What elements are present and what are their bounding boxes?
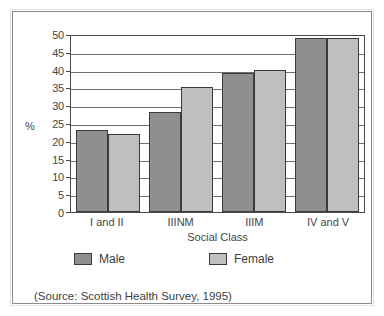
y-axis-tick-labels: 05101520253035404550 — [35, 35, 66, 213]
y-axis-tick-label: 5 — [58, 189, 64, 201]
legend-swatch-female — [209, 253, 227, 265]
y-axis-tick-label: 35 — [52, 82, 64, 94]
y-axis-tick-label: 10 — [52, 171, 64, 183]
bar-female-1 — [181, 87, 213, 212]
y-axis-tick-label: 40 — [52, 65, 64, 77]
legend-label: Male — [99, 252, 125, 266]
bar-female-3 — [327, 38, 359, 212]
y-axis-tick-label: 0 — [58, 207, 64, 219]
bar-female-0 — [108, 134, 140, 212]
bar-group — [144, 36, 217, 212]
bar-male-3 — [295, 38, 327, 212]
bar-groups — [71, 36, 364, 212]
x-axis-title: Social Class — [70, 231, 365, 243]
y-axis-tick-label: 25 — [52, 118, 64, 130]
chart-legend: MaleFemale — [70, 252, 320, 266]
y-axis-tick-label: 50 — [52, 29, 64, 41]
chart-screenshot: % 05101520253035404550 I and IIIIINMIIIM… — [0, 0, 384, 316]
x-axis-tick-label: IV and V — [291, 216, 365, 232]
figure-frame: % 05101520253035404550 I and IIIIINMIIIM… — [12, 11, 372, 304]
x-axis-tick-labels: I and IIIIINMIIIMIV and V — [70, 216, 365, 232]
bar-male-1 — [149, 112, 181, 212]
source-note: (Source: Scottish Health Survey, 1995) — [34, 290, 232, 302]
legend-label: Female — [234, 252, 274, 266]
y-axis-tick-label: 20 — [52, 136, 64, 148]
bar-group — [218, 36, 291, 212]
x-axis-tick-label: IIIM — [218, 216, 292, 232]
bar-group — [291, 36, 364, 212]
legend-swatch-male — [74, 253, 92, 265]
y-axis-tick-label: 45 — [52, 47, 64, 59]
bar-female-2 — [254, 70, 286, 212]
bar-male-2 — [222, 73, 254, 212]
x-axis-tick-label: I and II — [70, 216, 144, 232]
bar-male-0 — [76, 130, 108, 212]
legend-entry-male: Male — [74, 252, 125, 266]
plot-area — [70, 35, 365, 213]
bar-group — [71, 36, 144, 212]
legend-entry-female: Female — [209, 252, 274, 266]
y-axis-tick-label: 15 — [52, 154, 64, 166]
y-axis-title: % — [25, 120, 35, 132]
y-axis-tick-label: 30 — [52, 100, 64, 112]
x-axis-tick-label: IIINM — [144, 216, 218, 232]
